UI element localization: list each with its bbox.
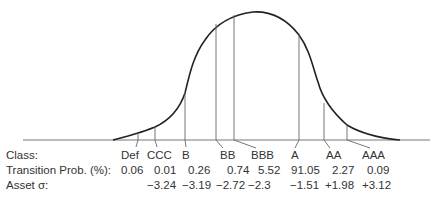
threshold-lines: [138, 15, 347, 140]
prob-def: 0.06: [121, 164, 143, 177]
class-ccc: CCC: [147, 149, 172, 162]
prob-bb: 0.74: [227, 164, 249, 177]
class-b: B: [182, 149, 190, 162]
prob-b: 0.26: [188, 164, 210, 177]
sigma-b: −3.19: [182, 179, 211, 192]
prob-a: 91.05: [291, 164, 320, 177]
class-bb: BB: [220, 149, 235, 162]
bell-curve: [113, 12, 400, 140]
sigma-aaa: +3.12: [362, 179, 391, 192]
row-label-class: Class:: [6, 149, 38, 162]
sigma-ccc: −3.24: [147, 179, 176, 192]
row-label-asset-sigma: Asset σ:: [6, 179, 48, 192]
prob-aaa: 0.09: [367, 164, 389, 177]
leader-lines: [136, 140, 370, 148]
prob-bbb: 5.52: [258, 164, 280, 177]
prob-aa: 2.27: [332, 164, 354, 177]
sigma-a: −1.51: [290, 179, 319, 192]
sigma-bb: −2.72: [216, 179, 245, 192]
class-aaa: AAA: [362, 149, 385, 162]
prob-ccc: 0.01: [154, 164, 176, 177]
class-aa: AA: [326, 149, 341, 162]
sigma-bbb: −2.3: [248, 179, 271, 192]
class-a: A: [291, 149, 299, 162]
row-label-transition-prob: Transition Prob. (%):: [6, 164, 111, 177]
class-def: Def: [121, 149, 139, 162]
sigma-aa: +1.98: [325, 179, 354, 192]
class-bbb: BBB: [251, 149, 274, 162]
